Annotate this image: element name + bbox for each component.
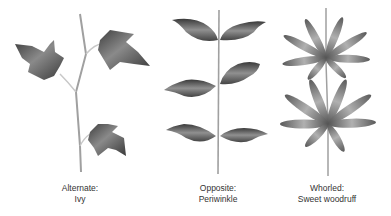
periwinkle-leaf — [172, 19, 218, 41]
panel-alternate: Alternate: Ivy — [0, 0, 160, 216]
caption-alternate: Alternate: Ivy — [44, 183, 116, 205]
periwinkle-leaf — [220, 62, 260, 84]
example-label: Ivy — [44, 194, 116, 205]
caption-opposite: Opposite: Periwinkle — [182, 183, 254, 205]
arrangement-label: Opposite: — [182, 183, 254, 194]
ivy-leaf — [15, 40, 64, 80]
arrangement-label: Alternate: — [44, 183, 116, 194]
stem — [76, 14, 86, 172]
panel-whorled: Whorled: Sweet woodruff — [260, 0, 391, 216]
arrangement-label: Whorled: — [282, 183, 372, 194]
example-label: Sweet woodruff — [282, 194, 372, 205]
stem — [218, 10, 219, 174]
caption-whorled: Whorled: Sweet woodruff — [282, 183, 372, 205]
ivy-leaf — [98, 30, 150, 70]
ivy-leaf — [88, 124, 126, 156]
stem — [326, 8, 328, 176]
periwinkle-leaf — [166, 124, 216, 142]
example-label: Periwinkle — [182, 194, 254, 205]
periwinkle-leaf — [164, 80, 216, 97]
